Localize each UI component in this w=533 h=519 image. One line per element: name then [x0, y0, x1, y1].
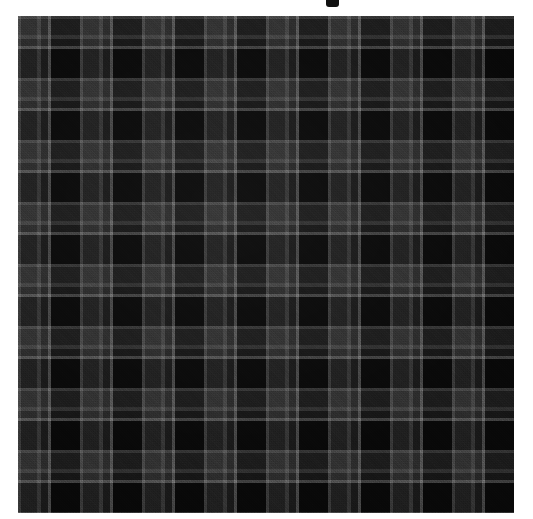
truncated-title-glyph: [326, 0, 339, 7]
tartan-swatch-image: [18, 16, 514, 513]
warp-stripes-layer: [18, 16, 514, 513]
twill-weave-texture-layer: [18, 16, 514, 513]
fabric-ground-layer: [18, 16, 514, 513]
lighting-vignette-layer: [18, 16, 514, 513]
weft-stripes-layer: [18, 16, 514, 513]
thread-grain-layer: [18, 16, 514, 513]
fabric-noise-layer: [18, 16, 514, 513]
swatch-page: [0, 0, 533, 519]
